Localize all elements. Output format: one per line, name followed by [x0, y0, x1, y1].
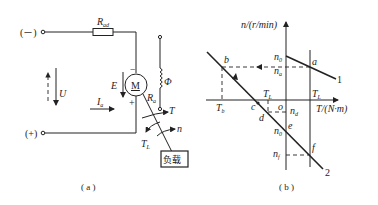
resistor-rad	[93, 29, 113, 36]
field-label: Φ	[164, 76, 172, 87]
transition-arrow-c-b	[232, 73, 238, 80]
field-coil-icon	[160, 68, 162, 88]
point-c	[256, 101, 259, 104]
emf-label: E	[110, 80, 117, 91]
motor-label: M	[131, 80, 140, 91]
point-b-label: b	[224, 54, 229, 65]
point-e-label: e	[288, 120, 293, 131]
terminal-positive	[41, 131, 45, 135]
diagram-svg: (－) (+) Rad M − + E U Ia Ra Φ T TL n 负载 …	[0, 0, 378, 205]
nf-label: nf	[273, 148, 281, 160]
field-terminal-top	[158, 35, 161, 38]
load-box-label: 负载	[163, 154, 181, 165]
field-terminal-bottom	[158, 107, 161, 110]
emf-minus: −	[130, 64, 136, 75]
caption-a: ( a )	[81, 182, 96, 192]
terminal-negative	[41, 30, 45, 34]
current-label: Ia	[96, 96, 103, 108]
diagram-canvas: (－) (+) Rad M − + E U Ia Ra Φ T TL n 负载 …	[0, 0, 378, 205]
TL-right-label: TL	[312, 88, 322, 100]
point-c-label: c	[251, 101, 256, 112]
load-torque-label: TL	[141, 138, 151, 150]
line-2-label: 2	[325, 167, 330, 178]
transition-arrow-a-b	[256, 64, 262, 70]
TL-left-label: TL	[263, 88, 273, 100]
origin-label: o	[278, 101, 283, 112]
T-axis-label: T/(N·m)	[316, 103, 348, 115]
voltage-label: U	[59, 88, 67, 99]
point-f-label: f	[312, 142, 316, 153]
terminal-positive-label: (+)	[25, 128, 37, 140]
resistor-label: Rad	[96, 16, 110, 28]
caption-b: ( b )	[279, 182, 294, 192]
emf-plus: +	[129, 97, 135, 108]
n0-top-label: n0	[274, 51, 282, 63]
point-a-label: a	[312, 56, 317, 67]
torque-label: T	[169, 105, 176, 116]
Tb-label: Tb	[216, 102, 225, 114]
speed-arrow-n	[157, 129, 175, 136]
speed-label: n	[177, 123, 182, 134]
terminal-negative-label: (－)	[20, 27, 37, 39]
nd-label: nd	[290, 105, 299, 117]
point-d-label: d	[259, 112, 265, 123]
n-axis-label: n/(r/min)	[241, 19, 278, 31]
characteristic-line-1	[286, 56, 336, 79]
line-1-label: 1	[337, 74, 342, 85]
armature-res-label: Ra	[146, 92, 156, 104]
